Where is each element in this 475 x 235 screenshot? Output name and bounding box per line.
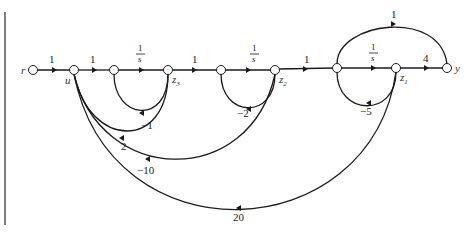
- arrow-icon: [371, 65, 376, 71]
- arrow-icon: [145, 156, 150, 162]
- node-y: [443, 64, 452, 73]
- node-label-z2: z2: [278, 73, 287, 88]
- node-label-y: y: [454, 62, 460, 74]
- svg-text:1: 1: [252, 43, 257, 53]
- gain-n4-z2: 1 s: [250, 43, 259, 64]
- gain-r-u: 1: [49, 53, 55, 65]
- gain-z1-n5: −5: [360, 105, 372, 117]
- svg-text:s: s: [138, 54, 142, 64]
- node-n4: [217, 66, 226, 75]
- edge-z1-n5: [337, 72, 396, 106]
- gain-n5-y: 1: [391, 8, 397, 20]
- gain-z2-n5: 1: [304, 53, 310, 65]
- svg-text:1: 1: [138, 43, 143, 53]
- edge-z3-n2: [114, 74, 168, 110]
- node-label-z1: z1: [399, 71, 408, 86]
- gain-u-n2: 1: [90, 53, 96, 65]
- svg-text:s: s: [252, 54, 256, 64]
- node-n2: [110, 66, 119, 75]
- gain-z1-y: 4: [423, 52, 429, 64]
- arrow-icon: [192, 67, 197, 73]
- svg-text:1: 1: [371, 42, 376, 52]
- arrow-icon: [52, 67, 57, 73]
- node-label-u: u: [65, 74, 71, 86]
- gain-z2-u: −10: [137, 164, 155, 176]
- gain-n5-z1: 1 s: [369, 42, 378, 63]
- node-label-r: r: [21, 64, 26, 76]
- gain-z1-u: 20: [233, 211, 245, 223]
- node-n5: [333, 64, 342, 73]
- gain-z3-u: 2: [121, 140, 127, 152]
- edge-z3-u: [74, 74, 168, 131]
- svg-text:s: s: [371, 53, 375, 63]
- node-label-z3: z3: [171, 73, 180, 88]
- arrow-icon: [139, 67, 144, 73]
- node-r: [29, 66, 38, 75]
- edge-n5-y: [337, 27, 447, 64]
- signal-flow-graph: r u z3 z2 z1 y 1 1 1 s 1 1 s 1 1 s 1 4 −…: [0, 0, 475, 235]
- gain-z3-n4: 1: [192, 53, 198, 65]
- gain-z3-n2: −1: [141, 119, 153, 131]
- gain-z2-n4: −2: [237, 107, 249, 119]
- node-u: [70, 66, 79, 75]
- gain-n2-z3: 1 s: [136, 43, 145, 64]
- arrow-icon: [424, 65, 429, 71]
- edge-z2-n4: [221, 74, 275, 108]
- arrow-icon: [92, 67, 97, 73]
- arrow-icon: [391, 21, 396, 27]
- arrow-icon: [303, 66, 308, 72]
- arrow-icon: [246, 67, 251, 73]
